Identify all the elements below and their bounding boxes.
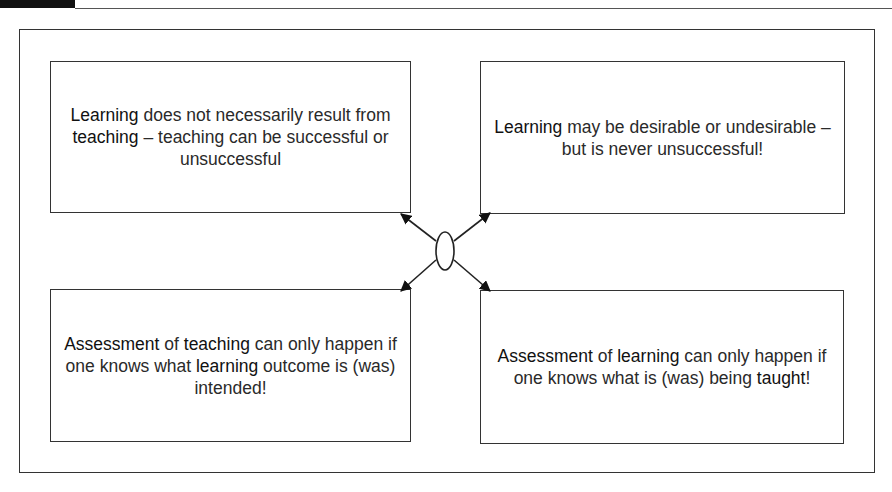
center-ellipse (436, 232, 454, 270)
arrow-bottom-right (454, 260, 490, 291)
arrow-top-left (401, 214, 436, 241)
arrow-bottom-left (401, 260, 436, 291)
arrow-top-right (454, 213, 490, 241)
connector-layer (0, 0, 892, 492)
